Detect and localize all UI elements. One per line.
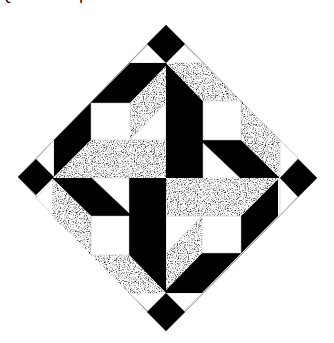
quilt-block-diagram: Quilt block pattern — [0, 0, 334, 343]
quadrant-bottom-left — [52, 178, 166, 293]
white-patch — [91, 103, 130, 140]
quadrant-bottom-right — [166, 178, 278, 293]
white-patch — [91, 216, 129, 255]
figure-title: Quilt block pattern — [0, 0, 129, 3]
white-patch — [202, 216, 241, 253]
quadrant-top-right — [166, 63, 280, 178]
white-patch — [203, 101, 241, 140]
quadrant-top-left — [54, 63, 166, 178]
